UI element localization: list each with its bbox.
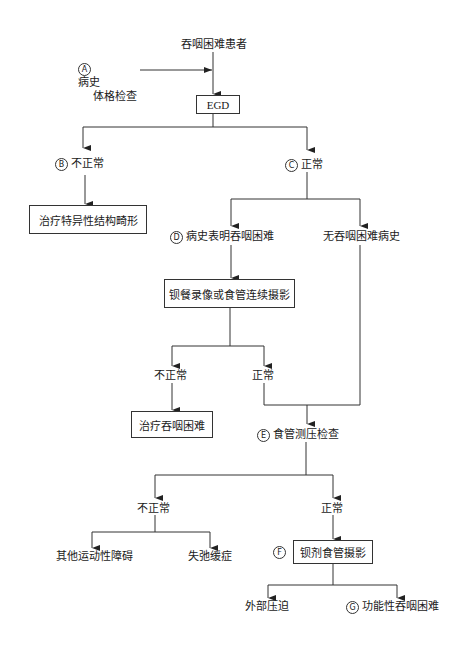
node-treat-dysphagia: 治疗吞咽困难: [131, 411, 213, 438]
node-e-manometry: E食管测压检查: [257, 428, 339, 442]
node-egd: EGD: [196, 95, 240, 114]
node-e-normal: 正常: [321, 502, 343, 516]
marker-f: F: [273, 545, 289, 559]
node-d-history-dysphagia: D病史表明吞咽困难: [170, 230, 274, 244]
node-treat-structural: 治疗特异性结构畸形: [29, 205, 147, 234]
node-g-functional-dysphagia: G功能性吞咽困难: [346, 600, 439, 614]
node-no-dysphagia-history: 无吞咽困难病史: [323, 230, 400, 244]
node-bv-normal: 正常: [252, 369, 274, 383]
node-achalasia: 失弛缓症: [188, 550, 232, 564]
node-f-barium-esophagram: 钡剂食管摄影: [293, 540, 373, 564]
node-a-history-exam: A病史 体格检查: [78, 63, 137, 104]
marker-g-icon: G: [346, 601, 359, 614]
node-bv-abnormal: 不正常: [154, 369, 187, 383]
node-b-abnormal: B不正常: [55, 157, 104, 171]
node-c-normal: C正常: [285, 158, 323, 172]
node-other-motility: 其他运动性障碍: [56, 550, 133, 564]
marker-e-icon: E: [257, 429, 270, 442]
marker-a-icon: A: [78, 63, 91, 76]
marker-b-icon: B: [55, 158, 68, 171]
node-barium-video: 钡餐录像或食管连续摄影: [164, 279, 295, 308]
node-dysphagia-patient: 吞咽困难患者: [181, 38, 247, 52]
marker-d-icon: D: [170, 231, 183, 244]
marker-f-icon: F: [273, 546, 286, 559]
node-external-compression: 外部压迫: [245, 600, 289, 614]
node-e-abnormal: 不正常: [137, 502, 170, 516]
marker-c-icon: C: [285, 159, 298, 172]
